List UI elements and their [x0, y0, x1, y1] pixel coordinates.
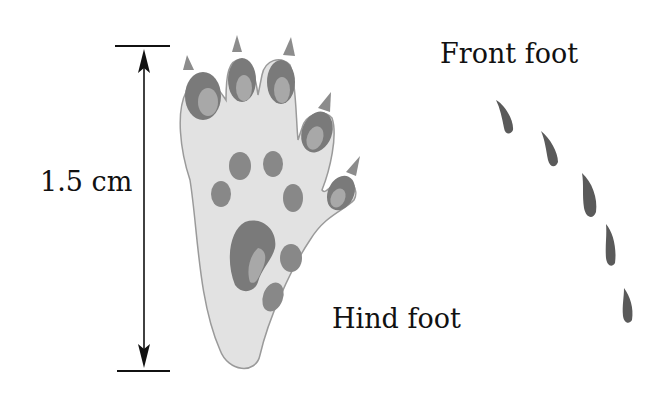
sole-pad [283, 184, 303, 212]
scale-bar [115, 46, 170, 371]
front-print [623, 288, 633, 323]
hind-foot-label: Hind foot [332, 303, 461, 334]
front-foot [496, 100, 633, 323]
claw-icon [346, 156, 360, 176]
front-print [496, 100, 513, 134]
claw-icon [183, 55, 194, 70]
sole-pad [263, 151, 283, 177]
sole-pad [211, 181, 231, 207]
toe-pad-inner [198, 88, 218, 116]
claw-icon [232, 35, 242, 52]
front-print [606, 224, 616, 266]
claw-icon [318, 92, 331, 112]
claw-icon [283, 37, 295, 56]
scale-label: 1.5 cm [40, 166, 132, 197]
front-foot-label: Front foot [440, 38, 578, 69]
toe-pad-inner [236, 75, 252, 101]
sole-pad [280, 244, 302, 272]
sole-pad [229, 152, 251, 180]
front-print [582, 173, 596, 217]
front-print [541, 131, 558, 166]
toe-pad-inner [274, 77, 290, 103]
